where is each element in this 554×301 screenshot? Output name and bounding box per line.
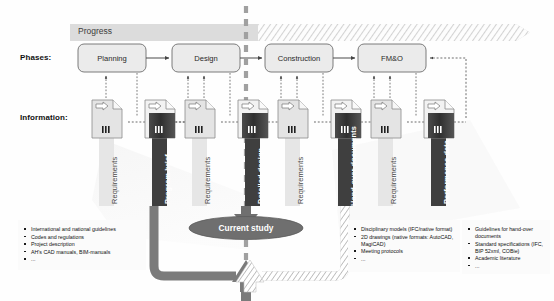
- document-icon-doc-7[interactable]: [371, 100, 401, 138]
- diagram-canvas: Phases: Information: Progress Planning D…: [0, 0, 554, 301]
- phase-label-construction: Construction: [265, 54, 333, 63]
- list-item: Codes and regulations: [22, 234, 140, 241]
- document-icons: [92, 100, 454, 138]
- doc-caption-doc-8: Performance data: [442, 140, 451, 204]
- phase-label-planning: Planning: [78, 54, 146, 63]
- bullet-list-deliverables: Disciplinary models (IFC/native format) …: [352, 226, 456, 263]
- phase-label-design: Design: [172, 54, 240, 63]
- list-item: Disciplinary models (IFC/native format): [352, 226, 456, 233]
- bullet-list-standards: Guidelines for hand-over documents Stand…: [466, 226, 548, 270]
- doc-caption-doc-4: Detailed design: [256, 148, 265, 204]
- document-icon-doc-8[interactable]: [424, 100, 454, 138]
- bullet-list-inputs: International and national guidelines Co…: [22, 226, 140, 264]
- doc-caption-doc-6: Hand-over documents: [349, 126, 358, 206]
- phase-label-fmo: FM&O: [358, 54, 426, 63]
- document-icon-doc-3[interactable]: [185, 100, 215, 138]
- row-label-phases: Phases:: [20, 54, 51, 62]
- doc-caption-doc-5: Requirements: [296, 157, 305, 204]
- doc-caption-doc-7: Requirements: [389, 157, 398, 204]
- progress-band: [70, 24, 530, 41]
- list-item: Meeting protocols: [352, 248, 456, 255]
- list-item: 2D drawings (native formats: AutoCAD, Ma…: [352, 234, 456, 248]
- doc-caption-doc-3: Requirements: [203, 157, 212, 204]
- current-study-label: Current study: [189, 223, 303, 233]
- list-item: ...: [352, 256, 456, 263]
- list-item: AH's CAD manuals, BIM-manuals: [22, 249, 140, 256]
- progress-banner-label: Progress: [78, 27, 112, 36]
- doc-caption-doc-1: Requirements: [110, 157, 119, 204]
- document-icon-doc-5[interactable]: [278, 100, 308, 138]
- row-label-information: Information:: [20, 114, 68, 122]
- list-item: Academic literature: [466, 255, 548, 262]
- list-item: Project description: [22, 241, 140, 248]
- list-item: ...: [22, 256, 140, 263]
- list-item: ...: [466, 263, 548, 270]
- list-item: Standard specifications (IFC, BIP 52xml,…: [466, 241, 548, 255]
- doc-caption-doc-2: Program brief: [163, 154, 172, 204]
- document-icon-doc-2[interactable]: [145, 100, 175, 138]
- list-item: International and national guidelines: [22, 226, 140, 233]
- document-icon-doc-4[interactable]: [238, 100, 268, 138]
- document-icon-doc-1[interactable]: [92, 100, 122, 138]
- list-item: Guidelines for hand-over documents: [466, 226, 548, 240]
